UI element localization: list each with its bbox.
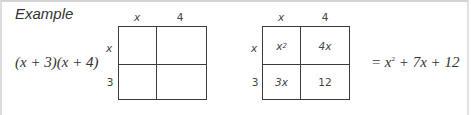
grid-cell (157, 65, 206, 99)
example-title: Example (15, 5, 73, 22)
grid-cell-12: 12 (301, 65, 349, 99)
grid-cell-4x: 4x (301, 27, 349, 65)
left-col-header-x: x (134, 11, 140, 23)
expanded-result: = x2 + 7x + 12 (371, 54, 459, 71)
left-row-header-x: x (106, 42, 112, 54)
grid-cell (119, 27, 157, 65)
area-model-grid-empty (118, 26, 207, 100)
grid-cell (157, 27, 206, 65)
grid-cell (119, 65, 157, 99)
right-col-header-4: 4 (322, 11, 329, 23)
left-col-header-4: 4 (177, 11, 184, 23)
right-row-header-x: x (251, 42, 257, 54)
area-model-grid-filled: x2 4x 3x 12 (262, 26, 350, 100)
grid-cell-x-squared: x2 (263, 27, 301, 65)
factored-expression: (x + 3)(x + 4) (15, 54, 99, 71)
left-row-header-3: 3 (107, 76, 114, 88)
grid-cell-3x: 3x (263, 65, 301, 99)
right-col-header-x: x (278, 11, 284, 23)
right-row-header-3: 3 (252, 76, 259, 88)
